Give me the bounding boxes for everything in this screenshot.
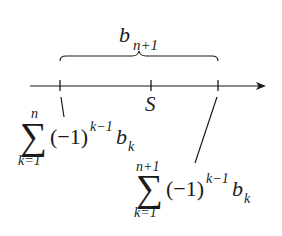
left-sum-paren: (−1) xyxy=(50,124,88,149)
curly-brace xyxy=(60,51,218,61)
right-sum-lower: k=1 xyxy=(134,205,157,220)
right-sum-exponent: k−1 xyxy=(206,171,229,186)
limit-label-s: S xyxy=(145,92,156,116)
leader-line-left xyxy=(61,97,64,117)
partial-sum-n: n ∑ k=1 (−1) k−1 b k xyxy=(18,106,135,168)
brace-label-subscript: n+1 xyxy=(133,37,158,53)
brace-label: b n+1 xyxy=(119,22,158,53)
left-sum-lower: k=1 xyxy=(18,153,41,168)
left-sum-term-sub: k xyxy=(128,139,135,154)
right-sigma-icon: ∑ xyxy=(136,167,163,210)
right-sum-paren: (−1) xyxy=(166,176,204,201)
right-sum-term-sub: k xyxy=(244,191,251,206)
partial-sum-n-plus-1: n+1 ∑ k=1 (−1) k−1 b k xyxy=(134,159,251,220)
leader-line-right xyxy=(195,97,217,163)
brace-label-base: b xyxy=(119,22,130,47)
left-sum-term: b xyxy=(116,124,127,149)
right-sum-term: b xyxy=(232,176,243,201)
left-sum-exponent: k−1 xyxy=(90,119,113,134)
left-sigma-icon: ∑ xyxy=(20,115,47,158)
number-line-diagram: b n+1 S n ∑ k=1 (−1) k−1 b k n+1 ∑ k=1 (… xyxy=(0,0,282,236)
